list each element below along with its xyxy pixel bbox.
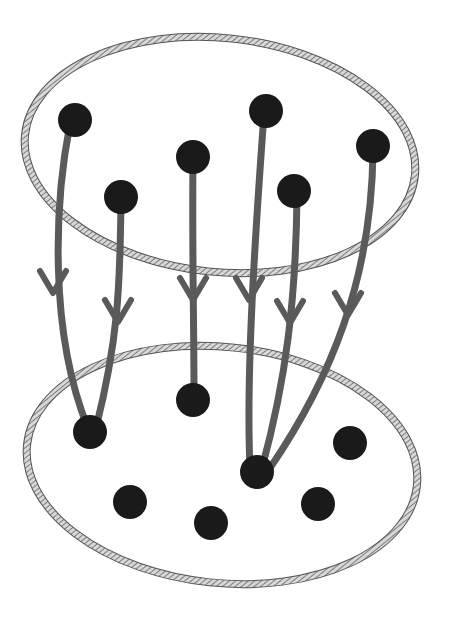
codomain-point-p [73, 415, 107, 449]
codomain-point-q [176, 383, 210, 417]
codomain-point-t [113, 485, 147, 519]
arrowhead-icon [236, 278, 262, 300]
codomain-set [15, 327, 430, 603]
function-diagram-canvas [0, 0, 449, 617]
dots-layer [58, 94, 390, 540]
domain-point-c [176, 140, 210, 174]
codomain-point-s [333, 426, 367, 460]
arrow-d-to-r [236, 114, 264, 468]
domain-point-b [104, 180, 138, 214]
arrow-c-to-q [180, 160, 206, 396]
domain-point-a [58, 103, 92, 137]
arrow-b-to-p [96, 200, 131, 428]
domain-point-e [277, 174, 311, 208]
domain-point-f [356, 129, 390, 163]
codomain-point-v [301, 487, 335, 521]
codomain-point-u [194, 506, 228, 540]
domain-point-d [249, 94, 283, 128]
codomain-point-r [240, 455, 274, 489]
